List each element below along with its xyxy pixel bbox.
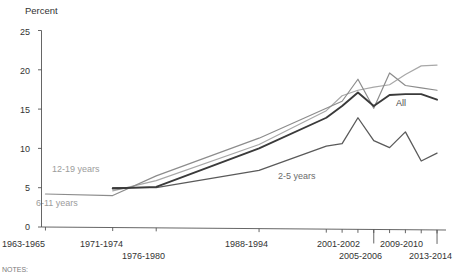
series-line-6-11-years <box>45 73 437 196</box>
axis-lines <box>38 31 446 244</box>
chart-figure: Percent 25 20 15 10 5 0 1963-1965 1971-1… <box>0 0 467 273</box>
series-line-2-5-years <box>113 118 437 188</box>
chart-plot-area <box>0 0 467 273</box>
series-line-12-19-years <box>113 65 437 191</box>
series-lines <box>45 65 437 195</box>
